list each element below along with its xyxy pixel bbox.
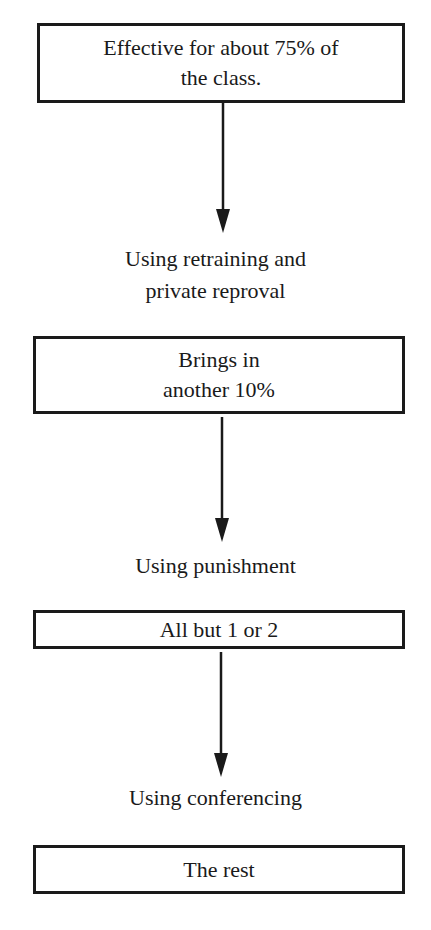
flow-box-text: Brings in another 10%	[163, 345, 275, 405]
transition-label-conferencing: Using conferencing	[0, 782, 431, 814]
flow-box-another-10: Brings in another 10%	[33, 336, 405, 414]
flow-box-text: The rest	[183, 855, 254, 885]
arrow-down-icon	[212, 417, 232, 547]
flow-box-text: Effective for about 75% of the class.	[103, 33, 338, 93]
flow-box-all-but-1-or-2: All but 1 or 2	[33, 610, 405, 649]
transition-label-punishment: Using punishment	[0, 550, 431, 582]
transition-label-retraining: Using retraining and private reproval	[0, 243, 431, 307]
arrow-down-icon	[211, 652, 231, 782]
flow-box-effective-75: Effective for about 75% of the class.	[37, 23, 405, 103]
arrow-down-icon	[213, 103, 233, 238]
flow-box-the-rest: The rest	[33, 845, 405, 894]
flow-box-text: All but 1 or 2	[160, 615, 279, 645]
